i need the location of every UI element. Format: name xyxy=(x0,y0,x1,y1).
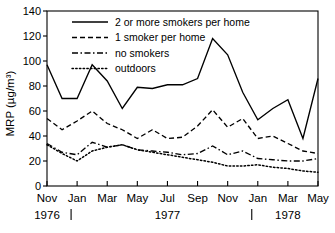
y-tick-label: 100 xyxy=(23,55,41,67)
x-year-label: 1976 xyxy=(34,209,60,221)
x-tick-label: Mar xyxy=(278,192,298,204)
series-line-dash-dot xyxy=(47,142,318,161)
x-tick-label: Sep xyxy=(187,192,207,204)
y-tick-label: 80 xyxy=(29,80,41,92)
y-tick-label: 140 xyxy=(23,5,41,17)
mrp-line-chart: 020406080100120140NovJanMarMayJulSepNovJ… xyxy=(0,0,335,233)
chart-legend: 2 or more smokers per home1 smoker per h… xyxy=(72,16,250,75)
series-line-dashed xyxy=(47,110,318,154)
x-tick-label: Nov xyxy=(217,192,238,204)
x-tick-label: Jan xyxy=(249,192,268,204)
series-line-dotted xyxy=(47,145,318,173)
x-year-label: 1978 xyxy=(275,209,301,221)
x-tick-label: May xyxy=(126,192,148,204)
x-tick-label: Mar xyxy=(97,192,117,204)
legend-label: no smokers xyxy=(115,47,169,59)
x-year-label: 1977 xyxy=(155,209,181,221)
x-tick-label: Jul xyxy=(160,192,175,204)
chart-figure: 020406080100120140NovJanMarMayJulSepNovJ… xyxy=(0,0,335,233)
data-series xyxy=(47,39,318,173)
axis-labels: MRP (µg/m³) xyxy=(4,71,16,137)
legend-label: 1 smoker per home xyxy=(115,31,206,43)
legend-label: 2 or more smokers per home xyxy=(115,16,250,28)
y-tick-label: 20 xyxy=(29,155,41,167)
legend-label: outdoors xyxy=(115,62,156,74)
y-tick-label: 120 xyxy=(23,30,41,42)
x-tick-label: May xyxy=(307,192,329,204)
y-tick-label: 0 xyxy=(35,180,41,192)
y-axis-title: MRP (µg/m³) xyxy=(4,71,16,137)
y-tick-label: 40 xyxy=(29,130,41,142)
x-tick-label: Jan xyxy=(68,192,87,204)
x-tick-label: Nov xyxy=(37,192,58,204)
y-tick-label: 60 xyxy=(29,105,41,117)
